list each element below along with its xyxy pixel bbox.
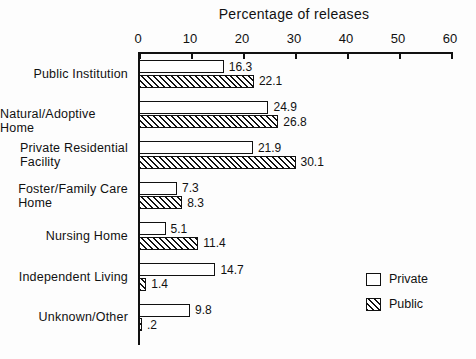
bar-private-3 bbox=[139, 182, 177, 195]
bar-value-private-2: 21.9 bbox=[258, 142, 281, 155]
category-label-line: Home bbox=[18, 196, 128, 210]
category-label-line: Unknown/Other bbox=[39, 310, 128, 324]
legend-item-private: Private bbox=[366, 272, 428, 286]
bar-value-private-0: 16.3 bbox=[229, 61, 252, 74]
bar-value-public-4: 11.4 bbox=[203, 237, 225, 250]
category-label-0: Public Institution bbox=[33, 67, 128, 81]
bar-value-private-6: 9.8 bbox=[195, 304, 212, 317]
bar-public-4 bbox=[139, 237, 198, 250]
category-label-1: Natural/Adoptive Home bbox=[0, 107, 128, 135]
category-label-line: Public Institution bbox=[33, 67, 128, 81]
chart-legend: PrivatePublic bbox=[366, 272, 428, 322]
bar-private-5 bbox=[139, 263, 215, 276]
category-label-line: Private Residential bbox=[20, 141, 128, 155]
bar-private-4 bbox=[139, 222, 166, 235]
bar-public-6 bbox=[139, 318, 142, 331]
category-label-line: Natural/Adoptive Home bbox=[0, 107, 128, 135]
bar-value-public-2: 30.1 bbox=[301, 156, 324, 169]
bar-value-private-1: 24.9 bbox=[273, 101, 296, 114]
bar-chart: Percentage of releases 0102030405060 Pub… bbox=[0, 0, 476, 359]
category-label-3: Foster/Family CareHome bbox=[18, 182, 128, 210]
category-label-4: Nursing Home bbox=[46, 229, 128, 243]
legend-label-private: Private bbox=[389, 272, 428, 286]
category-label-line: Facility bbox=[20, 155, 128, 169]
category-label-6: Unknown/Other bbox=[39, 310, 128, 324]
category-label-line: Foster/Family Care bbox=[18, 182, 128, 196]
category-label-line: Independent Living bbox=[19, 270, 128, 284]
bar-value-public-1: 26.8 bbox=[283, 116, 306, 129]
x-tick-mark-20 bbox=[243, 52, 245, 59]
bar-public-0 bbox=[139, 75, 254, 88]
x-tick-mark-10 bbox=[191, 52, 193, 59]
bar-value-private-4: 5.1 bbox=[171, 223, 188, 236]
bar-value-public-6: .2 bbox=[147, 319, 157, 332]
category-label-line: Nursing Home bbox=[46, 229, 128, 243]
bar-value-public-3: 8.3 bbox=[187, 197, 204, 210]
legend-swatch-public bbox=[366, 298, 381, 311]
bar-value-public-0: 22.1 bbox=[259, 75, 282, 88]
bar-public-5 bbox=[139, 278, 146, 291]
bar-public-1 bbox=[139, 115, 278, 128]
bar-value-private-3: 7.3 bbox=[182, 182, 199, 195]
bar-value-private-5: 14.7 bbox=[220, 264, 243, 277]
bar-private-6 bbox=[139, 304, 190, 317]
x-tick-mark-40 bbox=[347, 52, 349, 59]
bar-public-2 bbox=[139, 156, 296, 169]
legend-swatch-private bbox=[366, 273, 381, 286]
legend-item-public: Public bbox=[366, 297, 428, 311]
x-tick-mark-30 bbox=[295, 52, 297, 59]
bar-private-0 bbox=[139, 60, 224, 73]
bar-private-2 bbox=[139, 141, 253, 154]
category-label-5: Independent Living bbox=[19, 270, 128, 284]
bar-value-public-5: 1.4 bbox=[151, 278, 168, 291]
category-label-2: Private ResidentialFacility bbox=[20, 141, 128, 169]
x-tick-mark-50 bbox=[399, 52, 401, 59]
bar-public-3 bbox=[139, 196, 182, 209]
legend-label-public: Public bbox=[389, 297, 423, 311]
bar-private-1 bbox=[139, 101, 268, 114]
